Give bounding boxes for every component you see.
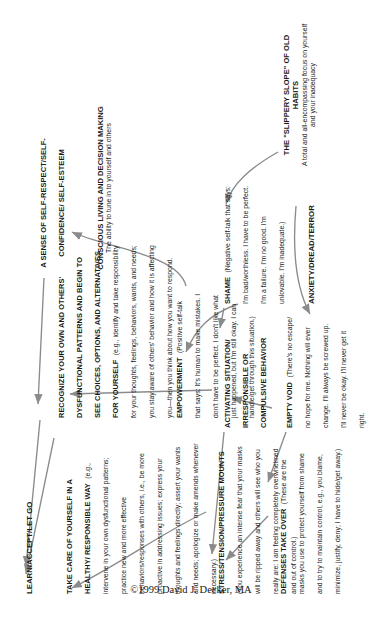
block-anxiety-dread-terror: ANXIETY/DREAD/TERROR: [300, 168, 318, 304]
block-shame-body: (Negative self-talk that says: I'm bad/w…: [224, 186, 285, 304]
block-defenses-take-over: DEFENSES TAKE OVER (These are the masks …: [272, 446, 344, 594]
block-recognize-heading: RECOGNIZE YOUR OWN AND OTHERS' DYSFUNCTI…: [57, 251, 120, 418]
block-slippery-slope-heading: THE "SLIPPERY SLOPE" OF OLD HABITS: [282, 22, 301, 168]
block-conscious-living-body: The ability to tune in to yourself and o…: [105, 102, 114, 274]
block-shame: SHAME (Negative self-talk that says: I'm…: [216, 184, 288, 304]
block-learn-heading: LEARN/ACCEPT/LET GO: [25, 502, 34, 594]
block-slippery-slope: THE "SLIPPERY SLOPE" OF OLD HABITS A tot…: [282, 22, 318, 168]
block-slippery-slope-body: A total and all-encompassing focus on yo…: [301, 22, 318, 168]
block-sense-of-self: A SENSE OF SELF-RESPECT/SELF-CONFIDENCE/…: [32, 132, 68, 274]
block-recognize-body: (e.g., identify and take responsibility …: [112, 245, 173, 418]
diagram-stage: LEARN/ACCEPT/LET GO TAKE CARE OF YOURSEL…: [10, 14, 372, 604]
block-activating-situation: ACTIVATING SITUATION/ IRRESPONSIBLE OR C…: [216, 336, 270, 428]
block-activating-heading: ACTIVATING SITUATION/ IRRESPONSIBLE OR C…: [223, 338, 268, 428]
block-defenses-body: (These are the masks you use to protect …: [280, 449, 341, 594]
diagram-canvas: LEARN/ACCEPT/LET GO TAKE CARE OF YOURSEL…: [0, 0, 382, 619]
block-learn-accept-let-go: LEARN/ACCEPT/LET GO: [18, 454, 36, 594]
block-empowerment-heading: EMPOWERMENT: [175, 358, 184, 419]
block-take-care-body: (e.g., intervene in your own dysfunction…: [84, 443, 217, 594]
block-sense-of-self-heading: A SENSE OF SELF-RESPECT/SELF-CONFIDENCE/…: [39, 138, 66, 268]
block-shame-heading: SHAME: [223, 277, 232, 304]
block-empty-void-heading: EMPTY VOID: [285, 382, 294, 428]
block-anxiety-heading: ANXIETY/DREAD/TERROR: [307, 205, 316, 304]
block-take-care-heading: TAKE CARE OF YOURSELF IN A HEALTHY/ RESP…: [65, 479, 92, 594]
arrow-sense-to-recognize: [38, 278, 44, 404]
block-stress-heading: STRESS/TENSION/PRESSURE MOUNTS: [217, 451, 226, 594]
copyright-notice: ©1999 David J. Decker, MA: [0, 584, 382, 595]
block-defenses-heading: DEFENSES TAKE OVER: [279, 509, 288, 594]
block-conscious-living-heading: CONSCIOUS LIVING AND DECISION MAKING: [96, 102, 105, 274]
block-conscious-living: CONSCIOUS LIVING AND DECISION MAKING The…: [96, 102, 114, 274]
block-empty-void: EMPTY VOID (There's no escape/ no hope f…: [278, 316, 368, 428]
block-take-care-of-yourself: TAKE CARE OF YOURSELF IN A HEALTHY/ RESP…: [58, 442, 220, 594]
block-empty-void-body: (There's no escape/ no hope for me. Noth…: [286, 317, 365, 428]
